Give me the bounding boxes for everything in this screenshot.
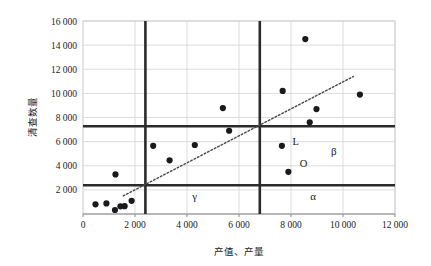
- data-point: [122, 203, 128, 209]
- point-label-O: O: [300, 158, 308, 169]
- region-alpha: α: [310, 190, 316, 202]
- y-axis-tick-label: 4 000: [56, 161, 78, 171]
- scatter-chart-figure: 02 0004 0006 0008 00010 00012 000 2 0004…: [0, 0, 431, 266]
- x-axis-title: 产值、产量: [214, 246, 264, 257]
- data-point: [150, 143, 156, 149]
- data-point: [357, 91, 363, 97]
- data-point: [313, 106, 319, 112]
- y-axis-tick-label: 12 000: [51, 65, 77, 75]
- y-axis-tick-label: 2 000: [56, 185, 78, 195]
- point-label-L: L: [292, 136, 298, 147]
- data-point: [92, 201, 98, 207]
- data-point: [302, 36, 308, 42]
- data-point: [279, 143, 285, 149]
- x-axis-tick-label: 10 000: [330, 220, 356, 230]
- data-point: [129, 198, 135, 204]
- x-axis-tick-label: 8 000: [280, 220, 302, 230]
- y-axis-tick-label: 10 000: [51, 89, 77, 99]
- data-point: [307, 119, 313, 125]
- region-gamma: γ: [191, 190, 197, 202]
- data-point: [112, 171, 118, 177]
- data-point: [112, 207, 118, 213]
- y-axis-title: 清查数量: [27, 97, 38, 137]
- data-point: [103, 200, 109, 206]
- data-point: [280, 88, 286, 94]
- region-beta: β: [331, 145, 337, 157]
- data-point: [192, 142, 198, 148]
- y-axis-tick-label: 6 000: [56, 137, 78, 147]
- x-axis-tick-label: 12 000: [382, 220, 408, 230]
- y-axis-tick-label: 8 000: [56, 113, 78, 123]
- x-axis-tick-label: 6 000: [228, 220, 250, 230]
- data-point: [285, 169, 291, 175]
- y-axis-tick-label: 16 000: [51, 17, 77, 27]
- data-point: [166, 157, 172, 163]
- x-axis-tick-label: 4 000: [176, 220, 198, 230]
- data-point: [226, 128, 232, 134]
- x-axis-tick-label: 0: [81, 220, 86, 230]
- chart-canvas: 02 0004 0006 0008 00010 00012 000 2 0004…: [0, 0, 431, 266]
- data-point: [220, 105, 226, 111]
- x-axis-tick-label: 2 000: [124, 220, 146, 230]
- y-axis-tick-label: 14 000: [51, 41, 77, 51]
